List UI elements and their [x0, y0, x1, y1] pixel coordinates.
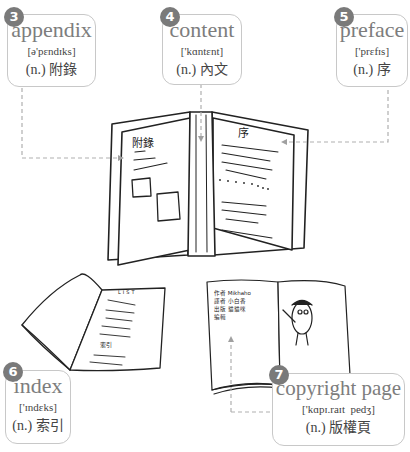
- leader-preface: [287, 90, 388, 142]
- part-of-speech: (n.): [12, 418, 32, 433]
- index-list-heading: LIST: [118, 289, 137, 295]
- term-definition: (n.) 附錄: [8, 63, 95, 77]
- number-badge-3: 3: [4, 7, 24, 27]
- part-of-speech: (n.): [306, 420, 326, 435]
- preface-page-heading: 序: [238, 124, 249, 140]
- term-translation: 附錄: [49, 62, 77, 77]
- term-ipa: ['kɑpɪ.raɪt pedʒ]: [273, 404, 404, 415]
- term-definition: (n.) 版權頁: [273, 421, 404, 435]
- number-badge-6: 6: [3, 362, 23, 382]
- number-badge-5: 5: [334, 7, 354, 27]
- term-definition: (n.) 內文: [163, 63, 241, 77]
- term-translation: 索引: [36, 418, 64, 433]
- term-card-appendix: appendix [ə'pɛndɪks] (n.) 附錄: [7, 14, 96, 87]
- copyright-credits: 作者 Mikhaho 譯者 小白香 出版 貓貓咪 編輯: [214, 289, 251, 321]
- term-ipa: ['ɪndɛks]: [6, 402, 70, 413]
- open-book-left-page: [118, 118, 190, 265]
- part-of-speech: (n.): [26, 62, 46, 77]
- credit-line: 作者 Mikhaho: [214, 289, 251, 297]
- term-ipa: ['prɛfɪs]: [337, 46, 407, 57]
- credit-line: 譯者 小白香: [214, 297, 251, 305]
- term-ipa: [ə'pɛndɪks]: [8, 46, 95, 57]
- term-translation: 內文: [200, 62, 228, 77]
- term-ipa: ['kɑntɛnt]: [163, 46, 241, 57]
- term-translation: 序: [377, 62, 391, 77]
- number-badge-7: 7: [269, 365, 289, 385]
- term-definition: (n.) 序: [337, 63, 407, 77]
- credit-line: 出版 貓貓咪: [214, 305, 251, 313]
- credit-line: 編輯: [214, 313, 251, 321]
- part-of-speech: (n.): [353, 62, 373, 77]
- term-definition: (n.) 索引: [6, 419, 70, 433]
- index-section-label: 索引: [100, 340, 112, 349]
- term-word: copyright page: [273, 378, 404, 399]
- part-of-speech: (n.): [176, 62, 196, 77]
- number-badge-4: 4: [160, 7, 180, 27]
- term-translation: 版權頁: [329, 420, 371, 435]
- appendix-page-heading: 附錄: [132, 134, 154, 150]
- leader-appendix: [22, 88, 118, 158]
- index-book: [22, 274, 165, 371]
- term-card-copyright-page: copyright page ['kɑpɪ.raɪt pedʒ] (n.) 版權…: [272, 373, 405, 446]
